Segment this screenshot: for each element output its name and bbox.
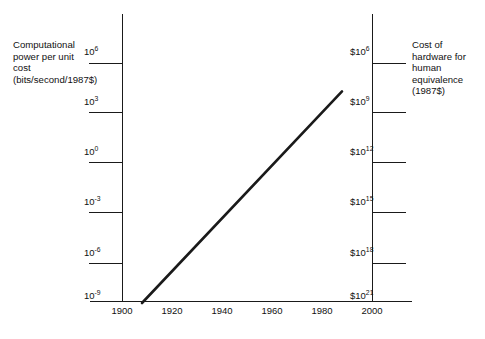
x-tick-label: 1980 (302, 306, 342, 316)
left-y-tick-exponent: -3 (95, 195, 101, 202)
right-axis-caption: Cost of hardware for human equivalence (… (412, 39, 484, 97)
left-y-tick-label: 10-6 (84, 248, 101, 258)
right-tick-line (372, 212, 406, 213)
right-y-tick-mantissa: $10 (350, 96, 366, 107)
right-y-tick-label: $1018 (350, 248, 373, 258)
left-tick-line (89, 263, 123, 264)
right-y-tick-mantissa: $10 (350, 290, 366, 301)
left-y-tick-mantissa: 10 (84, 247, 95, 258)
right-y-tick-label: $1015 (350, 197, 373, 207)
right-y-tick-exponent: 18 (366, 246, 374, 253)
left-y-tick-label: 100 (84, 147, 98, 157)
right-y-tick-label: $1012 (350, 147, 373, 157)
right-y-tick-mantissa: $10 (350, 46, 366, 57)
left-y-axis-line (122, 14, 123, 301)
right-y-tick-exponent: 9 (366, 95, 370, 102)
right-y-tick-exponent: 21 (366, 289, 374, 296)
left-tick-line (89, 162, 123, 163)
right-y-tick-label: $109 (350, 97, 370, 107)
right-y-tick-mantissa: $10 (350, 196, 366, 207)
right-tick-line (372, 162, 406, 163)
left-axis-caption: Computational power per unit cost (bits/… (13, 39, 91, 85)
x-tick-mark (122, 288, 123, 301)
right-y-tick-exponent: 12 (366, 145, 374, 152)
left-y-tick-label: 10-9 (84, 291, 101, 301)
left-y-tick-label: 10-3 (84, 197, 101, 207)
left-y-tick-exponent: 0 (95, 145, 99, 152)
right-y-tick-mantissa: $10 (350, 146, 366, 157)
left-y-tick-mantissa: 10 (84, 146, 95, 157)
x-tick-label: 1940 (202, 306, 242, 316)
right-tick-line (372, 263, 406, 264)
x-axis-line (90, 301, 412, 302)
chart-figure: 106 103 100 10-3 10-6 10-9 $106 $109 $10… (0, 0, 485, 339)
right-y-tick-exponent: 6 (366, 45, 370, 52)
left-y-tick-exponent: 6 (95, 45, 99, 52)
left-y-tick-mantissa: 10 (84, 96, 95, 107)
x-tick-label: 1920 (152, 306, 192, 316)
left-y-tick-mantissa: 10 (84, 290, 95, 301)
left-y-tick-exponent: -9 (95, 289, 101, 296)
left-y-tick-label: 103 (84, 97, 98, 107)
right-y-tick-label: $106 (350, 47, 370, 57)
left-tick-line (89, 212, 123, 213)
x-tick-label: 1960 (252, 306, 292, 316)
left-tick-line (89, 63, 123, 64)
right-tick-line (372, 112, 406, 113)
x-tick-label: 2000 (352, 306, 392, 316)
left-y-tick-exponent: 3 (95, 95, 99, 102)
left-y-tick-mantissa: 10 (84, 196, 95, 207)
right-y-tick-mantissa: $10 (350, 247, 366, 258)
right-tick-line (372, 63, 406, 64)
right-y-tick-label: $1021 (350, 291, 373, 301)
right-y-tick-exponent: 15 (366, 195, 374, 202)
x-tick-label: 1900 (102, 306, 142, 316)
left-y-tick-exponent: -6 (95, 246, 101, 253)
left-tick-line (89, 112, 123, 113)
